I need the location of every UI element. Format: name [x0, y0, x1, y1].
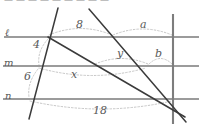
- line-label-m: m: [4, 58, 13, 68]
- segment-label-8: 8: [76, 19, 83, 30]
- line-label-l: ℓ: [5, 28, 9, 38]
- transversal-steep-left: [29, 8, 58, 119]
- arc-segment-x: [39, 68, 146, 76]
- line-label-n: n: [5, 91, 11, 101]
- geometry-figure: — — — — — — — — —: [0, 0, 199, 127]
- segment-label-18: 18: [93, 105, 107, 116]
- variable-label-y: y: [117, 48, 123, 59]
- variable-label-b: b: [155, 48, 162, 59]
- segment-label-6: 6: [24, 71, 31, 82]
- segment-label-4: 4: [33, 39, 40, 50]
- variable-label-a: a: [140, 19, 147, 30]
- variable-label-x: x: [71, 69, 77, 80]
